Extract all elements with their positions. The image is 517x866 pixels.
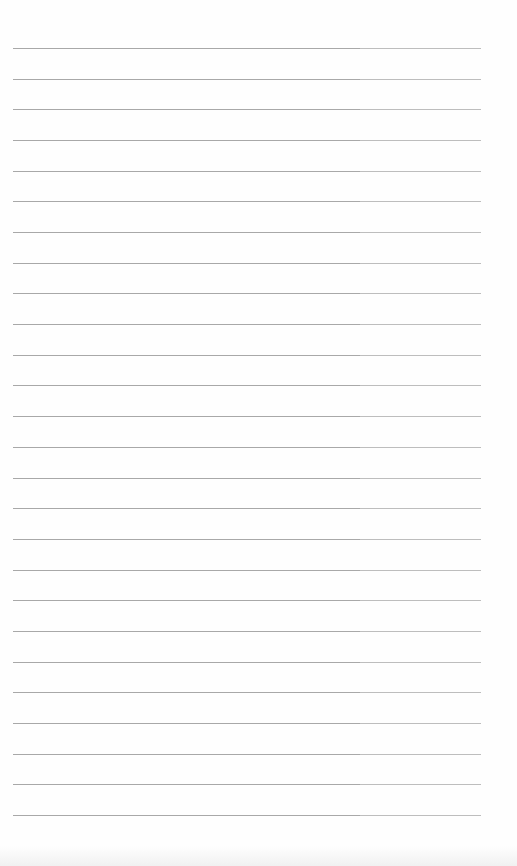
ruled-line-right-segment (360, 416, 481, 417)
ruled-line-right-segment (360, 324, 481, 325)
ruled-line-right-segment (360, 570, 481, 571)
ruled-line-left-segment (13, 631, 360, 632)
ruled-line-right-segment (360, 447, 481, 448)
ruled-line-right-segment (360, 631, 481, 632)
ruled-line-left-segment (13, 784, 360, 785)
ruled-line-right-segment (360, 293, 481, 294)
ruled-line-right-segment (360, 478, 481, 479)
ruled-line-right-segment (360, 784, 481, 785)
ruled-line-left-segment (13, 600, 360, 601)
ruled-line-left-segment (13, 263, 360, 264)
lined-paper-page (0, 0, 517, 866)
ruled-line-left-segment (13, 723, 360, 724)
ruled-line-right-segment (360, 539, 481, 540)
ruled-line-right-segment (360, 723, 481, 724)
ruled-line-left-segment (13, 48, 360, 49)
ruled-line-right-segment (360, 600, 481, 601)
ruled-line-right-segment (360, 815, 481, 816)
ruled-line-left-segment (13, 478, 360, 479)
ruled-line-left-segment (13, 171, 360, 172)
ruled-line-left-segment (13, 508, 360, 509)
ruled-line-left-segment (13, 79, 360, 80)
ruled-line-right-segment (360, 201, 481, 202)
ruled-line-left-segment (13, 109, 360, 110)
ruled-line-right-segment (360, 232, 481, 233)
ruled-line-left-segment (13, 692, 360, 693)
ruled-line-right-segment (360, 355, 481, 356)
ruled-line-left-segment (13, 324, 360, 325)
ruled-line-right-segment (360, 79, 481, 80)
ruled-line-left-segment (13, 539, 360, 540)
ruled-line-left-segment (13, 662, 360, 663)
ruled-line-left-segment (13, 447, 360, 448)
ruled-line-right-segment (360, 171, 481, 172)
ruled-line-left-segment (13, 416, 360, 417)
ruled-line-right-segment (360, 263, 481, 264)
ruled-line-right-segment (360, 140, 481, 141)
ruled-line-right-segment (360, 48, 481, 49)
page-bottom-edge (0, 846, 517, 866)
ruled-line-right-segment (360, 109, 481, 110)
ruled-line-left-segment (13, 815, 360, 816)
ruled-line-right-segment (360, 385, 481, 386)
ruled-line-right-segment (360, 692, 481, 693)
ruled-line-left-segment (13, 385, 360, 386)
ruled-line-left-segment (13, 201, 360, 202)
ruled-line-left-segment (13, 570, 360, 571)
ruled-line-right-segment (360, 508, 481, 509)
ruled-line-left-segment (13, 232, 360, 233)
ruled-line-right-segment (360, 662, 481, 663)
ruled-line-left-segment (13, 754, 360, 755)
ruled-line-right-segment (360, 754, 481, 755)
ruled-line-left-segment (13, 293, 360, 294)
ruled-line-left-segment (13, 355, 360, 356)
ruled-line-left-segment (13, 140, 360, 141)
